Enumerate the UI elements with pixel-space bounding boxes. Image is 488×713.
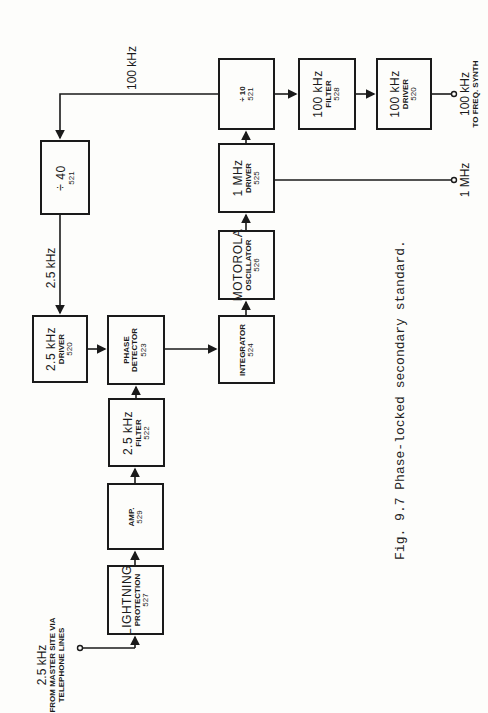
block-title: MOTOROLA bbox=[232, 229, 245, 301]
block-title: 2.5 kHz bbox=[45, 327, 58, 371]
driver-100khz-block: 100 kHzDRIVER520 bbox=[376, 58, 432, 130]
block-number: 527 bbox=[142, 565, 150, 635]
output-terminal-1mhz bbox=[452, 178, 457, 183]
integrator-block: INTEGRATOR524 bbox=[218, 315, 275, 384]
input-label: 2.5 kHz FROM MASTER SITE VIA TELEPHONE L… bbox=[36, 617, 67, 712]
lightning-protection-block: LIGHTNINGPROTECTION527 bbox=[107, 565, 164, 635]
figure-caption: Fig. 9.7 Phase-locked secondary standard… bbox=[393, 240, 408, 560]
input-source-line2: TELEPHONE LINES bbox=[58, 617, 67, 712]
driver-1mhz-block: 1 MHzDRIVER525 bbox=[218, 143, 275, 213]
block-number: 522 bbox=[143, 410, 151, 454]
block-number: 523 bbox=[140, 328, 148, 372]
divide-by-10-block: ÷ 10521 bbox=[218, 58, 275, 130]
block-number: 520 bbox=[66, 327, 74, 371]
phase-detector-block: PHASEDETECTOR523 bbox=[107, 315, 165, 385]
divide-by-40-block: ÷ 40521 bbox=[40, 140, 90, 215]
motorola-oscillator-block: MOTOROLAOSCILLATOR526 bbox=[218, 230, 275, 300]
block-number: 528 bbox=[333, 70, 341, 118]
driver-2-5khz-block: 2.5 kHzDRIVER520 bbox=[32, 315, 88, 383]
block-number: 526 bbox=[253, 229, 261, 301]
label-text: 1 MHz bbox=[459, 163, 472, 198]
block-title: 1 MHz bbox=[232, 159, 245, 196]
output-100khz-label: 100 kHz TO FREQ. SYNTH bbox=[459, 61, 481, 128]
output-terminal-100khz bbox=[452, 92, 457, 97]
block-title: LIGHTNING bbox=[121, 565, 134, 635]
block-number: 529 bbox=[136, 507, 144, 526]
label-text: 2.5 kHz bbox=[45, 248, 58, 289]
label-subtext: TO FREQ. SYNTH bbox=[472, 61, 481, 128]
feedback-100khz-label: 100 kHz bbox=[126, 46, 139, 90]
block-title: 100 kHz bbox=[312, 70, 325, 118]
block-number: 525 bbox=[253, 159, 261, 196]
label-text: 100 kHz bbox=[126, 46, 139, 90]
filter-2-5khz-block: 2.5 kHzFILTER522 bbox=[108, 398, 165, 467]
block-number: 521 bbox=[247, 86, 255, 102]
signal-2-5khz-label: 2.5 kHz bbox=[45, 248, 58, 289]
output-1mhz-label: 1 MHz bbox=[459, 163, 472, 198]
amp-block: AMP.529 bbox=[107, 483, 164, 550]
input-terminal bbox=[78, 646, 83, 651]
block-title: 100 kHz bbox=[389, 70, 402, 118]
filter-100khz-block: 100 kHzFILTER528 bbox=[298, 58, 356, 130]
block-number: 524 bbox=[247, 323, 255, 375]
block-title: 2.5 kHz bbox=[122, 410, 135, 454]
block-number: 521 bbox=[67, 165, 75, 190]
block-title: ÷ 40 bbox=[55, 165, 68, 190]
block-number: 520 bbox=[410, 70, 418, 118]
